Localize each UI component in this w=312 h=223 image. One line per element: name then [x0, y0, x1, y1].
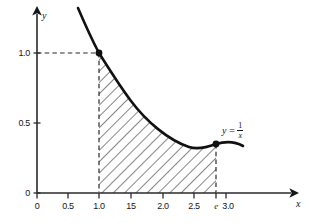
y-axis-label: y: [42, 10, 46, 21]
x-tick-label-e: e: [214, 201, 218, 211]
x-tick-label-0: 0: [35, 201, 40, 211]
y-tick-label-1-0: 1.0: [6, 48, 30, 58]
x-tick-label-3-0: 3.0: [222, 201, 234, 211]
plot-area: [0, 0, 312, 223]
point-one-one: [96, 50, 103, 57]
x-tick-label-1-0: 1.0: [93, 201, 105, 211]
curve-equation-label: y = 1 x: [222, 122, 243, 140]
x-axis: [37, 193, 291, 199]
y-tick-label-0-5: 0.5: [6, 118, 30, 128]
x-tick-label-2-0: 2.0: [157, 201, 169, 211]
shaded-area-under-curve: [99, 53, 216, 193]
curve-equation-fraction: 1 x: [237, 122, 243, 140]
figure-canvas: 0 0.5 1.0 15 2.0 2.5 e 3.0 0 0.5 1.0 y x…: [0, 0, 312, 223]
y-tick-label-0: 0: [10, 188, 30, 198]
y-axis: [34, 14, 41, 193]
x-tick-label-0-5: 0.5: [62, 201, 74, 211]
x-axis-label: x: [296, 198, 300, 209]
curve-equation-lhs: y: [222, 126, 226, 136]
curve-equation-numerator: 1: [237, 122, 243, 131]
curve-equation-denominator: x: [237, 131, 243, 140]
point-e: [213, 141, 220, 148]
x-tick-label-2-5: 2.5: [188, 201, 200, 211]
curve-equation-equals: =: [228, 126, 235, 136]
x-tick-label-1-5: 15: [126, 201, 135, 211]
